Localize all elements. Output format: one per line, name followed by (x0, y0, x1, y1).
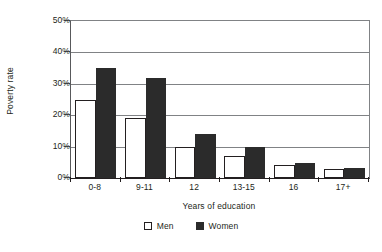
legend-entry-men: Men (144, 222, 174, 231)
x-axis-tick-mark (269, 177, 270, 182)
bar-men-0-8 (75, 100, 96, 179)
y-axis-tick-label: 30% (10, 79, 70, 88)
y-axis-tick-label: 0% (10, 173, 70, 182)
x-axis-category-ticks (70, 177, 368, 183)
legend-swatch-men-icon (144, 222, 152, 230)
y-axis-tick-label: 50% (10, 16, 70, 25)
x-axis-tick-label-0-8: 0-8 (89, 183, 102, 192)
x-axis-tick-label-13-15: 13-15 (233, 183, 255, 192)
bar-women-12 (195, 134, 216, 178)
x-axis-tick-label-17+: 17+ (336, 183, 351, 192)
y-axis-tick-label: 20% (10, 110, 70, 119)
x-axis-tick-mark (318, 177, 319, 182)
bar-group-container (71, 21, 369, 178)
y-axis-tick-label: 10% (10, 141, 70, 150)
x-axis-tick-mark (70, 177, 71, 182)
bar-men-13-15 (224, 156, 245, 178)
x-axis-tick-mark (368, 177, 369, 182)
bar-women-13-15 (245, 147, 266, 178)
legend-label-men: Men (157, 222, 174, 231)
plot-area (70, 20, 370, 179)
x-axis-tick-labels: 0-89-111213-151617+ (70, 183, 368, 197)
legend-label-women: Women (209, 222, 239, 231)
bar-men-12 (175, 147, 196, 178)
x-axis-title-text: Years of education (183, 201, 256, 211)
bar-men-9-11 (125, 118, 146, 178)
y-axis-ticks: 0%10%20%30%40%50% (0, 0, 70, 252)
bar-women-16 (295, 163, 316, 178)
bar-women-0-8 (96, 68, 117, 178)
bar-women-9-11 (146, 78, 167, 178)
x-axis-tick-label-16: 16 (289, 183, 299, 192)
x-axis-tick-mark (120, 177, 121, 182)
x-axis-tick-mark (169, 177, 170, 182)
chart-legend: Men Women (0, 222, 382, 231)
poverty-rate-bar-chart: Poverty rate 0%10%20%30%40%50% 0-89-1112… (0, 0, 382, 252)
legend-swatch-women-icon (196, 222, 204, 230)
y-axis-tick-label: 40% (10, 47, 70, 56)
x-axis-title: Years of education (70, 201, 368, 211)
x-axis-tick-mark (219, 177, 220, 182)
x-axis-tick-label-12: 12 (189, 183, 199, 192)
x-axis-tick-label-9-11: 9-11 (136, 183, 153, 192)
legend-entry-women: Women (196, 222, 239, 231)
